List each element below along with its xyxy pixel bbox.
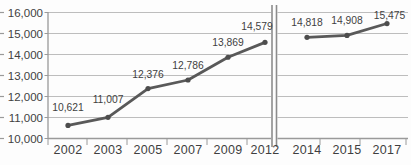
data-point [145,86,150,91]
data-point [384,21,389,26]
y-axis-label: 11,000 [9,112,43,124]
data-point [304,35,309,40]
data-label: 12,786 [172,60,204,71]
chart-canvas: 16,00015,00014,00013,00012,00011,00010,0… [0,0,411,165]
data-point [185,77,190,82]
data-label: 15,475 [374,10,406,21]
y-axis-label: 16,000 [8,7,43,19]
data-label: 13,869 [212,37,244,48]
x-axis-label: 2003 [93,143,122,157]
data-label: 14,908 [331,15,363,26]
x-axis-label: 2002 [53,143,82,157]
x-axis-label: 2007 [173,143,202,157]
data-point [65,123,70,128]
data-label: 12,376 [132,69,164,80]
data-label: 10,621 [52,102,84,113]
x-axis-label: 2014 [292,143,321,157]
x-axis-label: 2012 [250,143,279,157]
data-label: 14,818 [291,17,323,28]
line-chart: 16,00015,00014,00013,00012,00011,00010,0… [0,0,411,165]
y-axis-label: 10,000 [8,133,43,145]
y-axis-label: 12,000 [8,91,43,103]
x-axis-label: 2009 [213,143,242,157]
data-label: 14,579 [241,21,273,32]
x-axis-label: 2015 [332,143,361,157]
data-point [344,33,349,38]
y-axis-label: 14,000 [8,49,43,61]
y-axis-label: 13,000 [8,70,43,82]
data-label: 11,007 [93,94,124,105]
data-point [225,55,230,60]
data-point [105,115,110,120]
data-point [262,40,267,45]
y-axis-label: 15,000 [8,28,43,40]
x-axis-label: 2017 [372,143,401,157]
x-axis-label: 2005 [133,143,162,157]
